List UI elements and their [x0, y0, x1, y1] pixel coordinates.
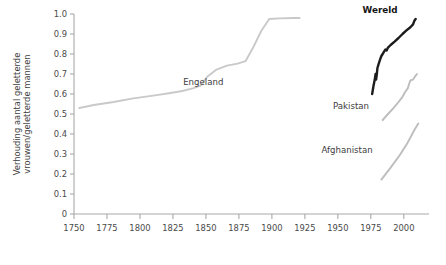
series-label-engeland: Engeland [183, 77, 223, 87]
series-labels: EngelandWereldPakistanAfghanistan [183, 5, 397, 155]
x-tick-label: 2000 [393, 223, 414, 233]
y-tick-label: 1.0 [54, 9, 67, 19]
literacy-ratio-chart: Verhouding aantal geletterdevrouwen/gele… [0, 0, 446, 265]
series-lines [79, 18, 418, 180]
y-tick-label: 0.9 [54, 29, 67, 39]
y-axis-title-line-2: vrouwen/geletterde mannen [22, 54, 32, 173]
y-tick-label: 0.8 [54, 49, 67, 59]
x-tick-label: 1950 [327, 223, 348, 233]
x-tick-label: 1750 [63, 223, 84, 233]
y-axis-title-line-1: Verhouding aantal geletterde [12, 53, 22, 176]
series-label-wereld: Wereld [363, 5, 398, 15]
x-tick-label: 1975 [360, 223, 381, 233]
y-tick-label: 0.5 [54, 109, 67, 119]
x-tick-label: 1925 [294, 223, 315, 233]
y-axis-label-group: Verhouding aantal geletterdevrouwen/gele… [12, 53, 32, 176]
series-label-afghanistan: Afghanistan [321, 145, 372, 155]
x-tick-label: 1850 [195, 223, 216, 233]
series-line-pakistan [383, 74, 417, 120]
x-axis: 1750177518001825185018751900192519501975… [63, 214, 429, 233]
series-line-engeland [79, 18, 299, 108]
x-tick-label: 1900 [261, 223, 282, 233]
series-line-afghanistan [381, 124, 418, 180]
y-tick-label: 0.7 [54, 69, 67, 79]
x-tick-label: 1775 [96, 223, 117, 233]
series-label-pakistan: Pakistan [333, 101, 369, 111]
chart-svg: Verhouding aantal geletterdevrouwen/gele… [0, 0, 446, 265]
x-tick-label: 1800 [129, 223, 150, 233]
x-tick-label: 1875 [228, 223, 249, 233]
y-axis: 00.10.20.30.40.50.60.70.80.91.0 [54, 9, 74, 219]
y-tick-label: 0 [62, 209, 67, 219]
y-tick-label: 0.3 [54, 149, 67, 159]
x-tick-label: 1825 [162, 223, 183, 233]
y-tick-label: 0.1 [54, 189, 67, 199]
y-tick-label: 0.4 [54, 129, 67, 139]
y-tick-label: 0.2 [54, 169, 67, 179]
y-tick-label: 0.6 [54, 89, 67, 99]
